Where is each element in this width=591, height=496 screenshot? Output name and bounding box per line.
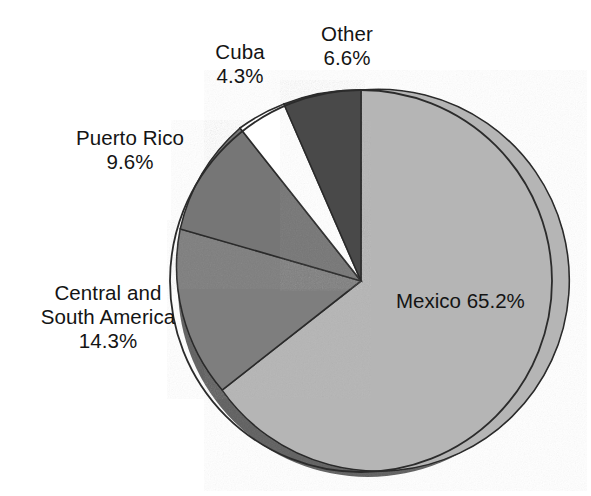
pie-label-central-and-south-america: Central and South America 14.3% bbox=[10, 281, 206, 352]
pie-label-cuba-name: Cuba bbox=[185, 40, 295, 64]
pie-label-cuba-value: 4.3% bbox=[185, 64, 295, 88]
pie-label-cuba: Cuba 4.3% bbox=[185, 40, 295, 88]
pie-label-other-name: Other bbox=[287, 22, 407, 46]
pie-chart: Other 6.6% Cuba 4.3% Puerto Rico 9.6% Ce… bbox=[0, 0, 591, 496]
pie-chart-graphic bbox=[0, 0, 591, 496]
pie-label-central-and-south-america-line1: Central and bbox=[10, 281, 206, 305]
pie-label-mexico-name: Mexico bbox=[396, 289, 461, 312]
pie-label-puerto-rico-value: 9.6% bbox=[45, 150, 215, 174]
pie-label-central-and-south-america-value: 14.3% bbox=[10, 329, 206, 353]
pie-label-other: Other 6.6% bbox=[287, 22, 407, 70]
pie-label-puerto-rico: Puerto Rico 9.6% bbox=[45, 126, 215, 174]
pie-label-mexico: Mexico 65.2% bbox=[396, 289, 520, 313]
pie-label-central-and-south-america-line2: South America bbox=[10, 305, 206, 329]
pie-label-other-value: 6.6% bbox=[287, 46, 407, 70]
pie-label-puerto-rico-name: Puerto Rico bbox=[45, 126, 215, 150]
pie-label-mexico-value: 65.2% bbox=[467, 289, 525, 312]
